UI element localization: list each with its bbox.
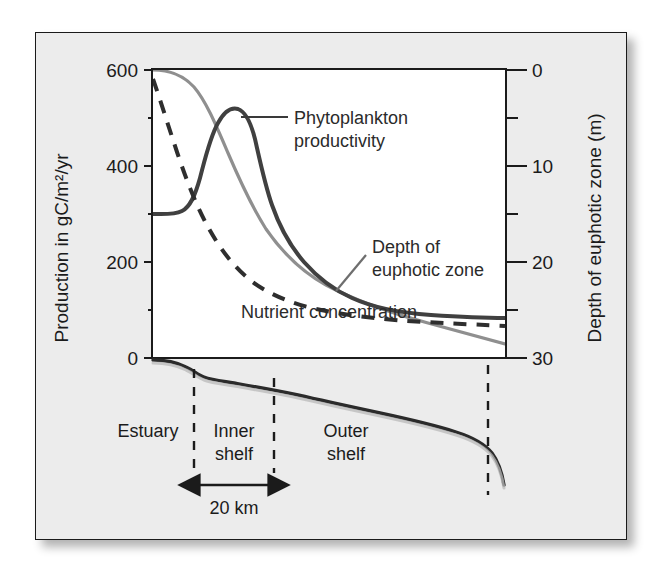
- zone-label-inner-shelf-line2: shelf: [215, 444, 254, 464]
- scale-bar-label: 20 km: [209, 498, 258, 518]
- y2-tick-label-30: 30: [532, 348, 553, 369]
- y-tick-label-0: 0: [127, 348, 138, 369]
- y2-tick-label-20: 20: [532, 252, 553, 273]
- nutrient-concentration-label: Nutrient concentration: [241, 302, 417, 322]
- y-tick-label-200: 200: [106, 252, 138, 273]
- phytoplankton-productivity-label-line2: productivity: [294, 131, 385, 151]
- zone-label-estuary: Estuary: [117, 421, 178, 441]
- y-tick-label-600: 600: [106, 60, 138, 81]
- y2-tick-label-0: 0: [532, 60, 543, 81]
- y2-axis-title: Depth of euphotic zone (m): [584, 113, 605, 342]
- figure-panel: Production in gC/m²/yr Depth of euphotic…: [35, 32, 627, 540]
- zone-label-outer-shelf-line1: Outer: [323, 421, 368, 441]
- y2-axis-ticks: [506, 70, 527, 358]
- depth-of-euphotic-zone-label-line2: euphotic zone: [372, 260, 484, 280]
- figure-svg: Production in gC/m²/yr Depth of euphotic…: [36, 33, 628, 541]
- depth-of-euphotic-zone-label-line1: Depth of: [372, 237, 441, 257]
- zone-label-outer-shelf-line2: shelf: [327, 444, 366, 464]
- zone-label-inner-shelf-line1: Inner: [213, 421, 254, 441]
- y-axis-title: Production in gC/m²/yr: [51, 153, 72, 343]
- y-tick-label-400: 400: [106, 156, 138, 177]
- y2-tick-label-10: 10: [532, 156, 553, 177]
- phytoplankton-productivity-label-line1: Phytoplankton: [294, 108, 408, 128]
